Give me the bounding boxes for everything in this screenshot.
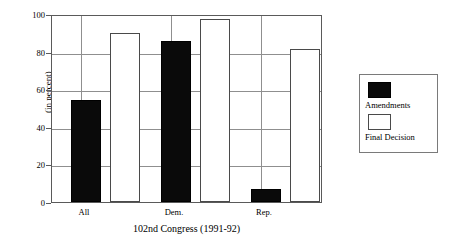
chart-legend: Amendments Final Decision [359, 74, 438, 153]
legend-label-amendments: Amendments [365, 100, 439, 111]
y-tick-label-0: 0 [15, 197, 45, 209]
y-tick-label-80: 80 [15, 47, 45, 59]
bar-all-amendments [71, 100, 101, 202]
legend-label-final-decision: Final Decision [365, 132, 439, 143]
bar-dem-amendments [161, 41, 191, 202]
x-tick-label-rep: Rep. [229, 207, 299, 218]
x-tick-label-all: All [49, 207, 119, 218]
bar-all-final-decision [110, 33, 140, 202]
y-tick-label-20: 20 [15, 159, 45, 171]
y-tick-label-60: 60 [15, 84, 45, 96]
bar-rep-amendments [251, 189, 281, 202]
x-tick-label-dem: Dem. [139, 207, 209, 218]
bar-rep-final-decision [290, 49, 320, 202]
x-axis-label: 102nd Congress (1991-92) [51, 222, 322, 235]
y-tick-label-100: 100 [15, 9, 45, 21]
y-tick-mark-0 [46, 203, 51, 204]
legend-swatch-amendments [368, 82, 391, 98]
plot-area [51, 15, 322, 203]
bar-chart-figure: (in percent) 0 20 40 60 80 100 All Dem. … [0, 0, 454, 248]
bar-dem-final-decision [200, 19, 230, 202]
y-tick-label-40: 40 [15, 122, 45, 134]
vgridline-3 [261, 16, 262, 202]
legend-swatch-final-decision [368, 114, 391, 130]
